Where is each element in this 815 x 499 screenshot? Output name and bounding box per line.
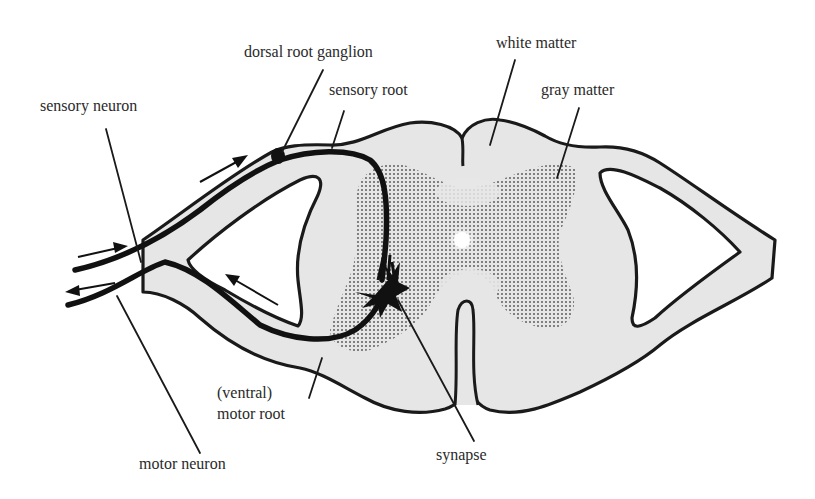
label-motor-neuron: motor neuron [139, 455, 226, 472]
label-gray-matter: gray matter [541, 81, 615, 99]
spinal-cord-diagram: dorsal root ganglion sensory root white … [0, 0, 815, 499]
ventral-fissure [455, 301, 478, 405]
label-ventral-line1: (ventral) [217, 384, 272, 402]
leader-motor-neuron [117, 296, 200, 453]
leader-sensory-neuron [106, 129, 141, 262]
label-synapse: synapse [436, 446, 487, 464]
leader-sensory-root [332, 111, 344, 148]
label-white-matter: white matter [496, 34, 577, 51]
dorsal-fissure [462, 138, 463, 166]
leader-dorsal-root-ganglion [282, 70, 323, 152]
label-sensory-root: sensory root [329, 81, 408, 99]
label-sensory-neuron: sensory neuron [40, 97, 137, 115]
label-dorsal-root-ganglion: dorsal root ganglion [244, 43, 373, 61]
label-ventral-line2: motor root [217, 405, 286, 422]
